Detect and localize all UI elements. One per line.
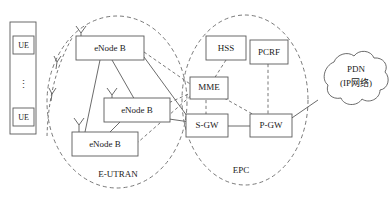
ue-antenna-upper-icon [54,56,61,69]
link-x2-enodeb1-enodeb3 [85,60,100,132]
pdn-cloud-label-line2: (IP网络) [340,77,372,88]
zone-label-epc: EPC [233,165,250,175]
pgw-label: P-GW [260,120,284,130]
enodeb-3-label: eNode B [89,139,121,149]
link-s1mme-enodeb1-mme [144,52,193,86]
link-x2-enodeb2-enodeb3 [110,122,120,132]
ue-stack-ellipsis: ⋮ [18,78,29,90]
link-mme-pgw [224,98,256,116]
ue-box-1-label: UE [18,41,29,50]
enodeb-2-label: eNode B [121,105,153,115]
mme-label: MME [198,82,220,92]
link-x2-enodeb1-enodeb2 [112,60,136,102]
ue-box-2-label: UE [18,113,29,122]
enodeb-3-antenna-icon [74,118,84,132]
enodeb-1-label: eNode B [94,43,126,53]
pdn-cloud-label-line1: PDN [347,64,366,74]
zone-label-eutran: E-UTRAN [98,169,138,179]
lte-architecture-diagram: UE ⋮ UE [0,0,392,210]
diagram-canvas: UE ⋮ UE [0,0,392,210]
sgw-label: S-GW [196,120,220,130]
pcrf-label: PCRF [258,47,280,57]
hss-label: HSS [218,43,235,53]
